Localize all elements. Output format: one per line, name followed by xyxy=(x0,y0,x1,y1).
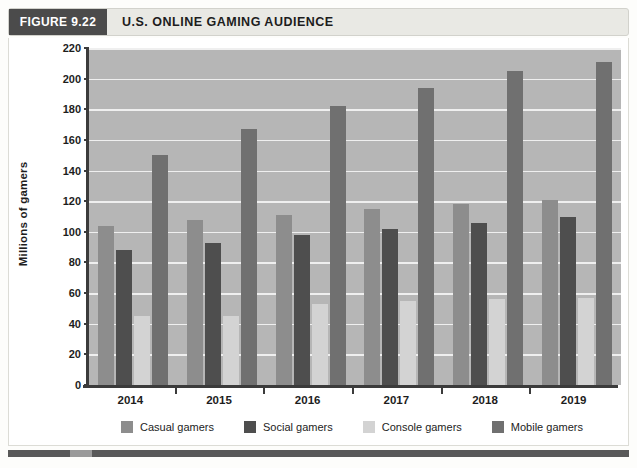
y-axis-tick-label: 220 xyxy=(41,42,81,54)
bar-mobile-gamers-2016 xyxy=(330,106,346,385)
gridline xyxy=(89,109,621,111)
bar-social-gamers-2017 xyxy=(382,229,398,385)
y-axis-title: Millions of gamers xyxy=(17,139,29,289)
figure-header: FIGURE 9.22 U.S. ONLINE GAMING AUDIENCE xyxy=(8,8,629,36)
bar-social-gamers-2015 xyxy=(205,243,221,385)
y-axis-tick-mark xyxy=(84,47,89,49)
y-axis-tick-label: 160 xyxy=(41,134,81,146)
bar-casual-gamers-2019 xyxy=(542,200,558,385)
x-axis-tick-label-2015: 2015 xyxy=(179,394,259,406)
figure-title: U.S. ONLINE GAMING AUDIENCE xyxy=(122,9,334,35)
legend-item-console-gamers[interactable]: Console gamers xyxy=(363,421,462,433)
bar-social-gamers-2016 xyxy=(294,235,310,385)
bar-casual-gamers-2018 xyxy=(453,204,469,385)
y-axis-tick-label: 180 xyxy=(41,103,81,115)
bar-casual-gamers-2015 xyxy=(187,220,203,385)
y-axis-tick-label: 40 xyxy=(41,318,81,330)
x-axis-tick-label-2016: 2016 xyxy=(268,394,348,406)
figure-number-label: FIGURE 9.22 xyxy=(9,9,107,35)
y-axis-tick-label: 140 xyxy=(41,165,81,177)
x-axis-tick-mark xyxy=(263,388,265,394)
bar-mobile-gamers-2017 xyxy=(418,88,434,385)
figure-container: FIGURE 9.22 U.S. ONLINE GAMING AUDIENCE … xyxy=(0,0,637,468)
x-axis-tick-label-2018: 2018 xyxy=(445,394,525,406)
y-axis-tick-mark xyxy=(84,323,89,325)
x-axis-tick-label-2014: 2014 xyxy=(90,394,170,406)
x-axis-line xyxy=(83,385,618,388)
bar-console-gamers-2015 xyxy=(223,316,239,385)
bar-console-gamers-2014 xyxy=(134,316,150,385)
bar-social-gamers-2018 xyxy=(471,223,487,385)
y-axis-tick-mark xyxy=(84,200,89,202)
gridline xyxy=(89,171,621,173)
bar-mobile-gamers-2019 xyxy=(596,62,612,385)
y-axis-tick-mark xyxy=(84,261,89,263)
y-axis-tick-mark xyxy=(84,353,89,355)
legend-swatch-icon xyxy=(492,421,504,433)
y-axis-tick-mark xyxy=(84,108,89,110)
bar-casual-gamers-2016 xyxy=(276,215,292,385)
gridline xyxy=(89,140,621,142)
y-axis-tick-mark xyxy=(84,170,89,172)
figure-footer-notch xyxy=(70,450,92,457)
x-axis-tick-label-2019: 2019 xyxy=(534,394,614,406)
x-axis-tick-mark xyxy=(441,388,443,394)
y-axis-tick-mark xyxy=(84,292,89,294)
bar-social-gamers-2019 xyxy=(560,217,576,386)
bar-console-gamers-2017 xyxy=(400,301,416,385)
y-axis-tick-label: 80 xyxy=(41,256,81,268)
legend-swatch-icon xyxy=(244,421,256,433)
y-axis-tick-label: 100 xyxy=(41,226,81,238)
legend-label: Mobile gamers xyxy=(511,421,583,433)
gridline xyxy=(89,48,621,50)
bar-mobile-gamers-2018 xyxy=(507,71,523,385)
figure-body: Millions of gamers Casual gamersSocial g… xyxy=(8,38,629,446)
y-axis-tick-label: 200 xyxy=(41,73,81,85)
x-axis-tick-mark xyxy=(529,388,531,394)
bar-casual-gamers-2017 xyxy=(364,209,380,385)
bar-console-gamers-2016 xyxy=(312,304,328,385)
bar-console-gamers-2018 xyxy=(489,299,505,385)
legend-item-mobile-gamers[interactable]: Mobile gamers xyxy=(492,421,583,433)
bar-chart: Millions of gamers Casual gamersSocial g… xyxy=(9,38,630,446)
y-axis-tick-label: 20 xyxy=(41,348,81,360)
y-axis-tick-label: 60 xyxy=(41,287,81,299)
bar-casual-gamers-2014 xyxy=(98,226,114,385)
x-axis-tick-mark xyxy=(352,388,354,394)
legend-swatch-icon xyxy=(121,421,133,433)
plot-area xyxy=(86,48,621,385)
y-axis-tick-mark xyxy=(84,78,89,80)
bar-console-gamers-2019 xyxy=(578,298,594,385)
x-axis-tick-mark xyxy=(175,388,177,394)
bar-mobile-gamers-2015 xyxy=(241,129,257,385)
bar-mobile-gamers-2014 xyxy=(152,155,168,385)
legend-item-social-gamers[interactable]: Social gamers xyxy=(244,421,333,433)
bar-social-gamers-2014 xyxy=(116,250,132,385)
y-axis-tick-mark xyxy=(84,139,89,141)
gridline xyxy=(89,79,621,81)
y-axis-tick-label: 0 xyxy=(41,379,81,391)
y-axis-tick-label: 120 xyxy=(41,195,81,207)
legend-label: Console gamers xyxy=(382,421,462,433)
chart-legend: Casual gamersSocial gamersConsole gamers… xyxy=(86,419,618,435)
x-axis-tick-label-2017: 2017 xyxy=(356,394,436,406)
y-axis-tick-mark xyxy=(84,231,89,233)
legend-label: Social gamers xyxy=(263,421,333,433)
figure-footer-rule xyxy=(8,450,629,457)
legend-label: Casual gamers xyxy=(140,421,214,433)
legend-swatch-icon xyxy=(363,421,375,433)
legend-item-casual-gamers[interactable]: Casual gamers xyxy=(121,421,214,433)
